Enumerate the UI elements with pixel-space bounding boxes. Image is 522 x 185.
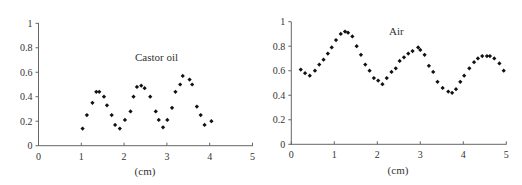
data-point [334, 38, 338, 42]
x-tick-label: 0 [36, 151, 41, 162]
data-point [190, 82, 194, 86]
data-point [376, 78, 380, 82]
data-point [202, 123, 206, 127]
data-point [497, 61, 501, 65]
data-point [472, 60, 476, 64]
data-point [402, 55, 406, 59]
data-point [435, 80, 439, 84]
data-point [410, 49, 414, 53]
x-tick-label: 3 [164, 151, 169, 162]
y-tick-label: 0.4 [273, 90, 286, 101]
data-point [422, 53, 426, 57]
data-point [187, 77, 191, 81]
data-point [446, 89, 450, 93]
x-tick-label: 0 [289, 149, 294, 160]
x-axis: 012345 [36, 143, 255, 162]
data-point [454, 87, 458, 91]
x-tick-label: 5 [504, 149, 509, 160]
data-point [299, 67, 303, 71]
data-point [317, 62, 321, 66]
data-point [431, 70, 435, 74]
data-point [110, 113, 114, 117]
y-tick-label: 0.8 [20, 42, 33, 53]
data-point [367, 69, 371, 73]
data-point [313, 69, 317, 73]
data-point [181, 74, 185, 78]
x-axis: 012345 [289, 141, 509, 160]
data-point [157, 118, 161, 122]
data-point [350, 34, 354, 38]
data-points [80, 74, 213, 131]
chart-annotation: Castor oil [135, 51, 178, 63]
data-point [406, 51, 410, 55]
y-axis: 00.20.40.60.81 [20, 18, 39, 151]
x-tick-label: 4 [461, 149, 466, 160]
y-tick-label: 1 [280, 16, 285, 27]
data-point [355, 44, 359, 48]
data-point [476, 56, 480, 60]
data-point [195, 104, 199, 108]
data-point [427, 64, 431, 68]
data-point [85, 113, 89, 117]
data-point [123, 118, 127, 122]
data-point [363, 62, 367, 66]
data-point [326, 51, 330, 55]
castor-oil-chart: 00.20.40.60.81 012345 Castor oil (cm) [0, 0, 261, 185]
chart-annotation: Air [389, 25, 404, 37]
data-point [488, 54, 492, 58]
data-point [113, 123, 117, 127]
data-point [131, 95, 135, 99]
data-point [339, 32, 343, 36]
data-point [380, 82, 384, 86]
data-point [385, 76, 389, 80]
data-point [154, 109, 158, 113]
data-point [467, 66, 471, 70]
data-point [143, 86, 147, 90]
data-point [178, 82, 182, 86]
data-point [97, 90, 101, 94]
y-tick-label: 0.4 [20, 91, 33, 102]
data-point [389, 70, 393, 74]
data-point [90, 101, 94, 105]
x-tick-label: 4 [207, 151, 212, 162]
data-point [161, 125, 165, 129]
data-point [394, 66, 398, 70]
data-point [105, 103, 109, 107]
data-point [502, 69, 506, 73]
y-tick-label: 0 [28, 140, 33, 151]
data-point [330, 45, 334, 49]
x-tick-label: 1 [332, 149, 337, 160]
y-tick-label: 1 [28, 18, 33, 29]
data-point [118, 126, 122, 130]
data-point [173, 90, 177, 94]
data-point [148, 95, 152, 99]
data-point [303, 71, 307, 75]
data-point [450, 91, 454, 95]
x-tick-label: 1 [79, 151, 84, 162]
y-tick-label: 0.2 [20, 116, 33, 127]
data-point [480, 54, 484, 58]
data-point [458, 80, 462, 84]
y-axis: 00.20.40.60.81 [273, 16, 292, 150]
data-point [462, 74, 466, 78]
data-point [165, 118, 169, 122]
x-axis-label: (cm) [388, 164, 409, 177]
data-point [209, 119, 213, 123]
x-tick-label: 3 [418, 149, 423, 160]
air-chart: 00.20.40.60.81 012345 Air (cm) [261, 0, 522, 185]
data-point [128, 109, 132, 113]
data-point [170, 106, 174, 110]
y-tick-label: 0.6 [273, 65, 286, 76]
x-tick-label: 2 [375, 149, 380, 160]
x-tick-label: 2 [122, 151, 127, 162]
y-tick-label: 0.8 [273, 41, 286, 52]
data-point [308, 74, 312, 78]
y-tick-label: 0 [280, 139, 285, 150]
data-point [321, 58, 325, 62]
x-tick-label: 5 [250, 151, 255, 162]
data-point [441, 86, 445, 90]
data-point [398, 59, 402, 63]
data-point [135, 85, 139, 89]
data-point [80, 126, 84, 130]
x-axis-label: (cm) [135, 165, 156, 178]
